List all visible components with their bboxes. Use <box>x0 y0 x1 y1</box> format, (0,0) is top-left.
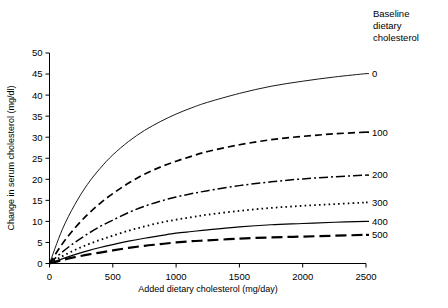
x-tick-label: 1000 <box>166 271 187 282</box>
y-axis-title: Change in serum cholesterol (mg/dl) <box>6 85 16 230</box>
y-tick-label: 5 <box>37 237 42 248</box>
x-tick-label: 500 <box>105 271 121 282</box>
x-axis-title: Added dietary cholesterol (mg/day) <box>138 284 278 294</box>
legend-title-line-2: dietary <box>373 20 402 31</box>
y-tick-label: 20 <box>32 174 43 185</box>
series-label-200: 200 <box>372 169 388 180</box>
x-tick-label: 2500 <box>355 271 376 282</box>
chart-figure: 05101520253035404550 0500100015002000250… <box>0 0 448 308</box>
y-tick-label: 25 <box>32 153 43 164</box>
x-tick-label: 0 <box>47 271 52 282</box>
y-tick-label: 0 <box>37 258 42 269</box>
legend-title-line-3: cholesterol <box>373 32 419 43</box>
series-label-100: 100 <box>372 127 388 138</box>
y-tick-label: 35 <box>32 111 43 122</box>
y-tick-label: 45 <box>32 68 43 79</box>
chart-background <box>0 0 448 308</box>
legend-title-line-1: Baseline <box>373 8 409 19</box>
x-tick-label: 2000 <box>292 271 313 282</box>
x-tick-label: 1500 <box>229 271 250 282</box>
series-label-400: 400 <box>372 216 388 227</box>
y-tick-label: 40 <box>32 90 43 101</box>
y-tick-label: 30 <box>32 132 43 143</box>
series-label-300: 300 <box>372 197 388 208</box>
y-tick-label: 15 <box>32 195 43 206</box>
series-label-500: 500 <box>372 229 388 240</box>
y-tick-label: 50 <box>32 47 43 58</box>
y-tick-label: 10 <box>32 216 43 227</box>
series-label-0: 0 <box>372 68 377 79</box>
